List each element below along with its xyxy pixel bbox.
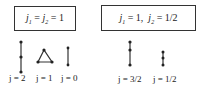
multiplet-j0-icon xyxy=(67,47,70,67)
label-j0: j = 0 xyxy=(61,73,78,83)
multiplet-j2-icon xyxy=(19,40,22,73)
label-j3half: j = 3/2 xyxy=(118,74,142,84)
multiplet-j1half-icon xyxy=(162,51,165,67)
label-j2: j = 2 xyxy=(9,73,26,83)
label-j1: j = 1 xyxy=(36,73,53,83)
multiplet-j1-triangle-icon xyxy=(36,48,53,63)
label-j1half: j = 1/2 xyxy=(153,74,177,84)
multiplet-j3half-icon xyxy=(128,40,131,66)
